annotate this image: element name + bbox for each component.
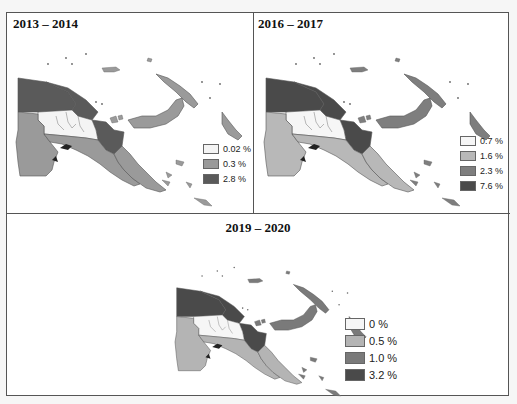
legend-swatch <box>345 318 365 330</box>
legend-swatch <box>345 352 365 364</box>
islet <box>201 81 203 83</box>
map-legend: 0.7 %1.6 %2.3 %7.6 % <box>460 134 503 194</box>
islet <box>247 309 249 311</box>
island <box>350 67 368 72</box>
legend-label: 0.5 % <box>369 335 397 347</box>
islet <box>313 57 315 59</box>
island <box>162 180 170 186</box>
island <box>110 116 118 123</box>
island <box>310 357 317 362</box>
panel-2019-2020: 2019 – 2020 0 %0.5 %1.0 %3.2 % <box>6 214 510 396</box>
islet <box>222 275 224 277</box>
legend-item: 1.0 % <box>345 350 397 365</box>
island <box>102 67 120 72</box>
island <box>261 319 265 323</box>
island <box>424 160 432 166</box>
region-new-britain <box>128 98 184 128</box>
legend-label: 1.0 % <box>369 352 397 364</box>
legend-item: 0.02 % <box>203 142 251 155</box>
islet <box>332 290 334 292</box>
legend-label: 2.8 % <box>223 174 246 184</box>
region-northwest <box>266 78 324 112</box>
legend-swatch <box>460 166 476 176</box>
islet <box>343 101 345 103</box>
island <box>118 115 123 120</box>
region-new-britain <box>376 98 432 128</box>
legend-item: 0 % <box>345 316 397 331</box>
islet <box>217 270 219 272</box>
legend-swatch <box>345 369 365 381</box>
legend-label: 0.3 % <box>223 159 246 169</box>
islet <box>101 103 103 105</box>
islet <box>338 304 340 306</box>
legend-item: 2.8 % <box>203 172 251 185</box>
islet <box>349 103 351 105</box>
islet <box>65 57 67 59</box>
island <box>166 172 172 178</box>
legend-label: 1.6 % <box>480 151 503 161</box>
island <box>176 160 184 166</box>
legend-swatch <box>203 159 219 169</box>
panel-2013-2014: 2013 – 2014 0.02 %0.3 %2.8 % <box>6 12 253 213</box>
islet <box>47 63 49 65</box>
region-bougainville <box>222 112 242 140</box>
legend-swatch <box>345 335 365 347</box>
legend-label: 7.6 % <box>480 181 503 191</box>
region-new-britain <box>270 305 317 330</box>
island <box>286 271 290 274</box>
island <box>414 172 420 178</box>
legend-item: 3.2 % <box>345 367 397 382</box>
islet <box>95 101 97 103</box>
island <box>326 389 341 396</box>
island <box>302 367 307 372</box>
islet <box>295 63 297 65</box>
island <box>395 58 400 62</box>
legend-swatch <box>203 144 219 154</box>
island <box>434 182 440 188</box>
legend-item: 7.6 % <box>460 179 503 192</box>
islet <box>319 63 321 65</box>
islet <box>219 83 221 85</box>
islet <box>209 97 211 99</box>
island <box>366 115 371 120</box>
islet <box>242 307 244 309</box>
legend-swatch <box>460 136 476 146</box>
legend-label: 0.02 % <box>223 144 251 154</box>
legend-label: 0 % <box>369 318 388 330</box>
island <box>255 320 262 326</box>
legend-label: 2.3 % <box>480 166 503 176</box>
island <box>194 198 212 206</box>
islet <box>449 81 451 83</box>
legend-item: 0.3 % <box>203 157 251 170</box>
legend-swatch <box>460 181 476 191</box>
islet <box>233 267 235 269</box>
island <box>319 376 324 381</box>
island <box>358 116 366 123</box>
map-legend: 0 %0.5 %1.0 %3.2 % <box>345 316 397 384</box>
island <box>147 58 152 62</box>
legend-swatch <box>460 151 476 161</box>
panel-2016-2017: 2016 – 2017 0.7 %1.6 %2.3 %7.6 % <box>254 12 510 213</box>
island <box>298 374 305 379</box>
island <box>186 182 192 188</box>
region-northwest <box>177 288 226 317</box>
legend-label: 3.2 % <box>369 369 397 381</box>
islet <box>457 97 459 99</box>
islet <box>85 53 87 55</box>
map-legend: 0.02 %0.3 %2.8 % <box>203 142 251 187</box>
islet <box>71 63 73 65</box>
legend-item: 0.5 % <box>345 333 397 348</box>
legend-swatch <box>203 174 219 184</box>
island <box>442 198 460 206</box>
legend-item: 1.6 % <box>460 149 503 162</box>
islet <box>467 83 469 85</box>
region-northwest <box>18 78 76 112</box>
islet <box>347 292 349 294</box>
islet <box>333 53 335 55</box>
islet <box>201 275 203 277</box>
legend-item: 2.3 % <box>460 164 503 177</box>
legend-item: 0.7 % <box>460 134 503 147</box>
island <box>248 279 263 283</box>
island <box>410 180 418 186</box>
legend-label: 0.7 % <box>480 136 503 146</box>
